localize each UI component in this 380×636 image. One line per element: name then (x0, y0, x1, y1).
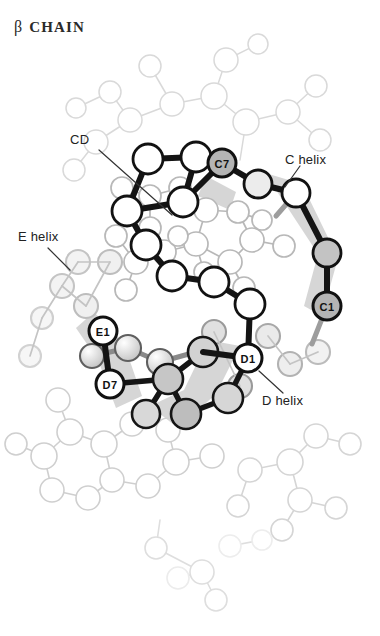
atom-C1[interactable]: C1 (313, 292, 341, 320)
label-d-helix: D helix (262, 393, 303, 408)
atom-C7[interactable]: C7 (208, 149, 236, 177)
atom-D1[interactable]: D1 (234, 344, 262, 372)
title-greek-beta: β (14, 18, 22, 35)
background-atoms-lowest (145, 520, 272, 611)
atom-C7-label: C7 (215, 158, 230, 170)
label-c-helix: C helix (285, 152, 326, 167)
label-e-helix: E helix (18, 229, 58, 244)
figure-panel: C7 C1 E1 D7 D1 (0, 0, 380, 636)
atom-C1-label: C1 (320, 301, 335, 313)
atom-D1-label: D1 (241, 353, 256, 365)
background-atoms-bottom-right (227, 424, 361, 541)
atom-E1-label: E1 (96, 326, 110, 338)
molecule-diagram: C7 C1 E1 D7 D1 (0, 0, 380, 636)
atom-E1[interactable]: E1 (89, 317, 117, 345)
atom-D7[interactable]: D7 (96, 370, 124, 398)
d-helix-leader-line (259, 371, 283, 393)
title-word: CHAIN (29, 19, 85, 35)
figure-title: βCHAIN (14, 18, 85, 36)
atom-D7-label: D7 (103, 379, 118, 391)
label-cd: CD (70, 132, 89, 147)
